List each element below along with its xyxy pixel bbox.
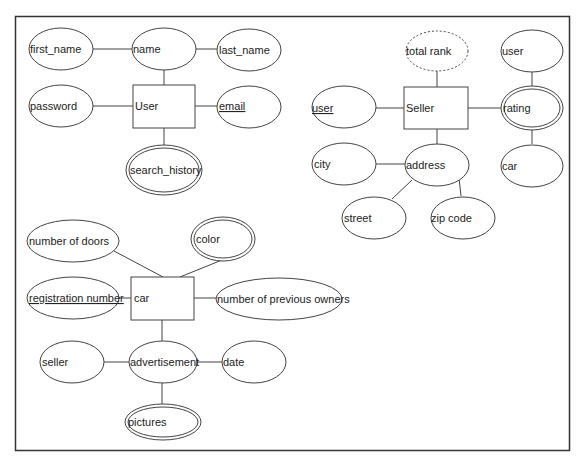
label-number-of-doors: number of doors	[29, 235, 110, 247]
label-street: street	[344, 212, 372, 224]
label-password: password	[30, 100, 77, 112]
label-car-entity: car	[134, 292, 150, 304]
label-total-rank: total rank	[406, 45, 452, 57]
label-ad-seller: seller	[42, 356, 69, 368]
label-date: date	[223, 356, 244, 368]
label-name: name	[133, 43, 161, 55]
label-seller-user: user	[312, 102, 334, 114]
label-pictures: pictures	[128, 416, 167, 428]
label-search-history: search_history	[130, 164, 202, 176]
label-last-name: last_name	[219, 44, 270, 56]
er-diagram-canvas: first_name name last_name User password …	[0, 0, 586, 464]
label-email: email	[219, 100, 245, 112]
label-advertisement: advertisement	[130, 356, 199, 368]
label-rating: rating	[503, 102, 531, 114]
label-seller-entity: Seller	[406, 102, 434, 114]
label-rating-user: user	[502, 45, 524, 57]
label-address: address	[406, 159, 446, 171]
label-city: city	[314, 158, 331, 170]
label-color: color	[196, 233, 220, 245]
label-rating-car: car	[502, 160, 518, 172]
label-number-of-previous-owners: number of previous owners	[217, 293, 350, 305]
label-user-entity: User	[135, 100, 159, 112]
label-zip-code: zip code	[431, 212, 472, 224]
label-registration-number: registration number	[29, 292, 124, 304]
label-first-name: first_name	[30, 43, 81, 55]
